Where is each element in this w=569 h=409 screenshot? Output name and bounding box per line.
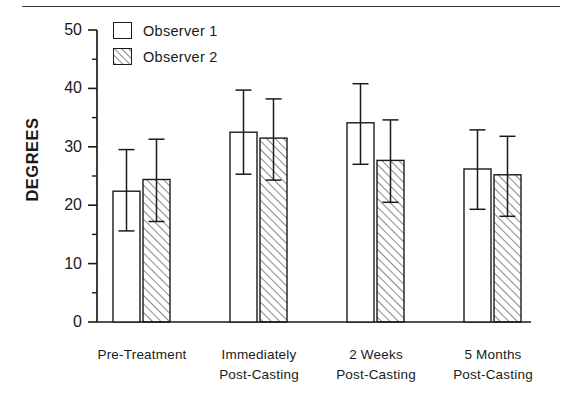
x-category-label-pre-treatment: Pre-Treatment bbox=[82, 345, 202, 365]
x-category-line-1: 2 Weeks bbox=[316, 345, 436, 365]
x-category-line-2: Post-Casting bbox=[433, 365, 553, 385]
x-category-line-2: Post-Casting bbox=[199, 365, 319, 385]
x-category-line-2: Post-Casting bbox=[316, 365, 436, 385]
x-category-line-1: 5 Months bbox=[433, 345, 553, 365]
x-category-label-2-weeks-post-casting: 2 Weeks Post-Casting bbox=[316, 345, 436, 384]
x-category-line-1: Pre-Treatment bbox=[82, 345, 202, 365]
x-category-line-1: Immediately bbox=[199, 345, 319, 365]
x-category-label-5-months-post-casting: 5 Months Post-Casting bbox=[433, 345, 553, 384]
x-category-label-immediately-post-casting: Immediately Post-Casting bbox=[199, 345, 319, 384]
chart-figure: DEGREES 50 40 30 20 10 0 Observer 1 Obse… bbox=[0, 0, 569, 409]
